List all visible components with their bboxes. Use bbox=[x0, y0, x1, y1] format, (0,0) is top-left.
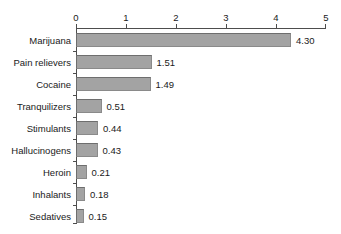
y-axis-tick-1 bbox=[73, 73, 76, 74]
x-tick-label-2: 2 bbox=[173, 12, 178, 23]
bar-value-label: 0.18 bbox=[90, 189, 109, 200]
category-label: Sedatives bbox=[0, 211, 71, 222]
bar bbox=[76, 99, 102, 113]
bar-value-label: 0.44 bbox=[103, 123, 122, 134]
bar-chart: 0 1 2 3 4 5 Marijuana 4.30 Pain reliever… bbox=[0, 0, 341, 234]
x-tick-label-1: 1 bbox=[123, 12, 128, 23]
category-label: Hallucinogens bbox=[0, 145, 71, 156]
bar bbox=[76, 187, 85, 201]
bar-value-label: 0.51 bbox=[107, 101, 126, 112]
category-label: Tranquilizers bbox=[0, 101, 71, 112]
x-axis-tick-3 bbox=[226, 24, 227, 28]
category-label: Cocaine bbox=[0, 79, 71, 90]
category-label: Inhalants bbox=[0, 189, 71, 200]
x-tick-label-4: 4 bbox=[273, 12, 278, 23]
x-axis-tick-5 bbox=[325, 24, 326, 28]
x-axis-line bbox=[76, 28, 326, 29]
bar bbox=[76, 143, 98, 157]
x-tick-label-0: 0 bbox=[73, 12, 78, 23]
y-axis-tick-6 bbox=[73, 183, 76, 184]
x-axis-tick-1 bbox=[126, 24, 127, 28]
bar bbox=[76, 77, 151, 91]
category-label: Stimulants bbox=[0, 123, 71, 134]
y-axis-tick-0 bbox=[73, 51, 76, 52]
x-tick-label-3: 3 bbox=[223, 12, 228, 23]
y-axis-tick-5 bbox=[73, 161, 76, 162]
y-axis-tick-3 bbox=[73, 117, 76, 118]
bar-value-label: 0.43 bbox=[103, 145, 122, 156]
category-label: Heroin bbox=[0, 167, 71, 178]
x-tick-label-5: 5 bbox=[323, 12, 328, 23]
bar-value-label: 0.15 bbox=[89, 211, 108, 222]
bar bbox=[76, 209, 84, 223]
y-axis-tick-4 bbox=[73, 139, 76, 140]
bar bbox=[76, 33, 291, 47]
y-axis-tick-8 bbox=[73, 223, 76, 224]
category-label: Marijuana bbox=[0, 35, 71, 46]
bar-value-label: 0.21 bbox=[92, 167, 111, 178]
bar-value-label: 1.49 bbox=[156, 79, 175, 90]
bar bbox=[76, 55, 152, 69]
category-label: Pain relievers bbox=[0, 57, 71, 68]
bar-value-label: 1.51 bbox=[157, 57, 176, 68]
x-axis-tick-labels: 0 1 2 3 4 5 bbox=[0, 12, 341, 25]
y-axis-tick-7 bbox=[73, 205, 76, 206]
y-axis-tick-2 bbox=[73, 95, 76, 96]
x-axis-tick-2 bbox=[176, 24, 177, 28]
bar-value-label: 4.30 bbox=[296, 35, 315, 46]
bar bbox=[76, 165, 87, 179]
bar bbox=[76, 121, 98, 135]
x-axis-tick-4 bbox=[276, 24, 277, 28]
